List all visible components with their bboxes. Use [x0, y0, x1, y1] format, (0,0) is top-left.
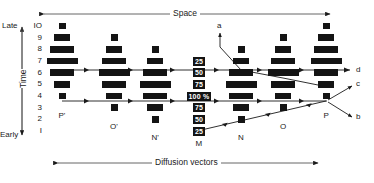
vector-c-line	[328, 86, 352, 100]
vector-b-line	[328, 102, 352, 117]
bar	[50, 69, 74, 75]
y-tick-8: 8	[28, 45, 42, 53]
bar	[233, 104, 249, 110]
bar	[229, 69, 253, 75]
percent-label: 25	[193, 57, 205, 66]
bar	[275, 46, 291, 52]
percent-label: 25	[193, 127, 205, 136]
y-tick-IO: IO	[28, 22, 42, 30]
percent-label: 50	[193, 115, 205, 124]
y-tick-5: 5	[28, 80, 42, 88]
bar	[106, 46, 122, 52]
diffusion-diagram: IO98765432I 255075100 %755025 P'O'N'MNOP…	[0, 0, 374, 183]
bar	[47, 58, 78, 64]
bar	[59, 93, 66, 99]
bar	[318, 81, 334, 87]
bar	[229, 93, 253, 99]
bar	[143, 93, 167, 99]
bar	[280, 104, 287, 110]
percent-label: 100 %	[187, 92, 212, 101]
bar	[318, 34, 334, 40]
bar	[152, 116, 159, 122]
bar	[147, 104, 163, 110]
bar	[152, 46, 159, 52]
percent-label: 75	[193, 103, 205, 112]
bar	[111, 104, 118, 110]
bar	[275, 93, 291, 99]
diffusion-axis-title: Diffusion vectors	[152, 158, 221, 167]
node-label-M: M	[196, 140, 203, 148]
node-label-P: P	[324, 112, 329, 120]
vector-label-d: d	[356, 66, 360, 74]
bar	[311, 58, 342, 64]
bar	[238, 116, 245, 122]
bar	[54, 34, 70, 40]
vector-label-b: b	[356, 113, 360, 121]
bar	[99, 69, 130, 75]
time-late-label: Late	[2, 22, 18, 30]
space-axis-title: Space	[170, 9, 200, 18]
node-label-P-prime: P'	[59, 112, 66, 120]
bar	[111, 34, 118, 40]
percent-label: 75	[193, 80, 205, 89]
bar	[314, 69, 338, 75]
y-tick-I: I	[28, 127, 42, 135]
bar	[102, 58, 126, 64]
vector-rising-line	[197, 101, 326, 131]
bar	[271, 58, 295, 64]
vector-label-a: a	[217, 22, 221, 30]
node-label-N: N	[238, 134, 244, 142]
bar	[238, 46, 245, 52]
bar	[323, 23, 330, 29]
bar	[140, 81, 171, 87]
y-tick-9: 9	[28, 34, 42, 42]
bar	[271, 81, 295, 87]
bar	[106, 93, 122, 99]
bar	[226, 81, 257, 87]
y-tick-7: 7	[28, 57, 42, 65]
node-label-N-prime: N'	[152, 134, 159, 142]
vector-label-c: c	[356, 80, 360, 88]
y-tick-2: 2	[28, 115, 42, 123]
bar	[143, 69, 167, 75]
bar	[268, 69, 299, 75]
node-label-O-prime: O'	[110, 123, 118, 131]
bar	[280, 34, 287, 40]
bar	[323, 93, 330, 99]
bar	[50, 46, 74, 52]
bar	[314, 46, 338, 52]
y-tick-6: 6	[28, 69, 42, 77]
y-tick-3: 3	[28, 104, 42, 112]
bar	[102, 81, 126, 87]
bar	[54, 81, 70, 87]
bar	[233, 58, 249, 64]
bar	[59, 23, 66, 29]
y-tick-4: 4	[28, 92, 42, 100]
time-early-label: Early	[0, 131, 18, 139]
percent-label: 50	[193, 68, 205, 77]
bar	[147, 58, 163, 64]
node-label-O: O	[280, 123, 286, 131]
time-axis-title: Time	[19, 69, 28, 88]
